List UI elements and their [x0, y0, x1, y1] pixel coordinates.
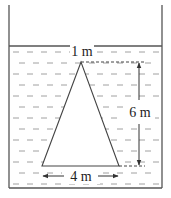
top-width-label: 1 m: [71, 44, 93, 59]
height-label: 6 m: [129, 105, 151, 120]
triangle-plate: [42, 62, 119, 166]
base-width-label: 4 m: [70, 169, 92, 184]
submerged-triangle-diagram: 6 m 1 m 4 m: [0, 0, 171, 198]
